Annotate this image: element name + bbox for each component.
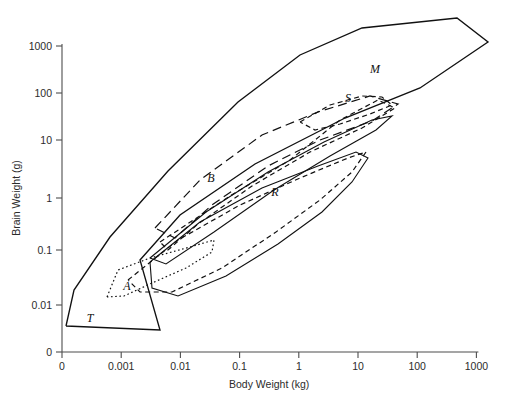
y-tick-label-2: 0.1 [37, 244, 52, 256]
series-polygon-secondary-hull [160, 100, 395, 250]
y-tick-label-0: 0 [46, 346, 52, 358]
y-tick-label-5: 100 [34, 87, 52, 99]
y-tick-label-1: 0.01 [32, 299, 53, 311]
series-label-M: M [369, 62, 381, 76]
x-tick-label-4: 1 [296, 360, 302, 372]
x-tick-label-2: 0.01 [170, 360, 191, 372]
series-label-R: R [270, 185, 279, 199]
plot-canvas: 00.0010.010.1110100100000.010.1110100100… [0, 0, 505, 407]
series-label-A: A [122, 279, 131, 293]
y-tick-label-4: 10 [40, 134, 52, 146]
series-polygon-reptiles-hull [128, 152, 366, 292]
series-label-S: S [345, 91, 351, 105]
y-tick-label-3: 1 [46, 192, 52, 204]
x-tick-label-5: 10 [352, 360, 364, 372]
x-axis-title: Body Weight (kg) [229, 378, 309, 390]
x-tick-label-1: 0.001 [108, 360, 134, 372]
x-tick-label-6: 100 [408, 360, 426, 372]
x-tick-label-3: 0.1 [232, 360, 247, 372]
series-polygon-inner-solid-hull [150, 152, 368, 296]
chart-figure: 00.0010.010.1110100100000.010.1110100100… [0, 0, 505, 407]
y-axis-title: Brain Weight (g) [10, 160, 22, 236]
y-tick-label-6: 1000 [29, 40, 53, 52]
axes: 00.0010.010.1110100100000.010.1110100100… [10, 40, 488, 390]
x-tick-label-0: 0 [59, 360, 65, 372]
series-label-B: B [207, 171, 215, 185]
x-tick-label-7: 1000 [465, 360, 489, 372]
series-label-T: T [87, 311, 95, 325]
